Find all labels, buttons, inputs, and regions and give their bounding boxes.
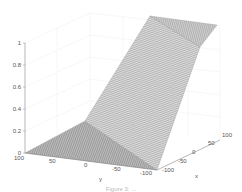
z-axis-labels: 1 0.8 0.6 0.4 0.2 0 [13, 40, 22, 156]
surface-plot: 1 0.8 0.6 0.4 0.2 0 100 50 0 -50 -100 y … [0, 0, 242, 192]
surface-plot-figure: 1 0.8 0.6 0.4 0.2 0 100 50 0 -50 -100 y … [0, 0, 242, 192]
y-axis-label: y [99, 176, 102, 182]
x-tick-neg100: -100 [162, 167, 175, 173]
z-tick-0.2: 0.2 [13, 128, 22, 134]
x-axis-label: x [195, 173, 198, 179]
z-tick-0.8: 0.8 [13, 62, 22, 68]
y-tick-100: 100 [14, 155, 25, 161]
z-tick-1: 1 [18, 40, 22, 46]
y-tick-0: 0 [84, 162, 88, 168]
x-tick-neg50: -50 [178, 158, 187, 164]
y-tick-neg50: -50 [112, 166, 121, 172]
y-tick-50: 50 [49, 158, 56, 164]
x-axis-labels: -100 -50 0 50 100 x [162, 132, 233, 179]
x-tick-50: 50 [208, 140, 215, 146]
x-tick-100: 100 [222, 132, 233, 138]
y-tick-neg100: -100 [140, 170, 153, 176]
z-tick-0.6: 0.6 [13, 84, 22, 90]
z-tick-0.4: 0.4 [13, 106, 22, 112]
figure-caption: Figure 3: ... [106, 186, 137, 192]
